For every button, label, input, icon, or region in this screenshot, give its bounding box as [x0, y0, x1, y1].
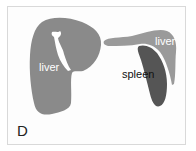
panel-label: D	[17, 123, 28, 138]
liver-left-label: liver	[39, 62, 59, 73]
liver-right-label: liver	[155, 36, 175, 47]
anatomy-diagram	[0, 0, 196, 151]
spleen-label: spleen	[122, 69, 154, 80]
